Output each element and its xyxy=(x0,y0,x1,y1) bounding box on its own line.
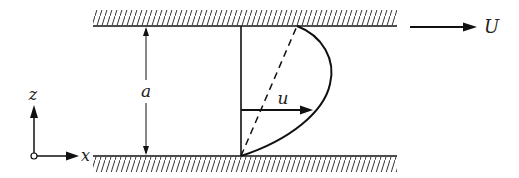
plate-velocity: U xyxy=(410,16,500,37)
velocity-arrow: u xyxy=(241,88,313,115)
bottom-plate xyxy=(93,156,397,172)
velocity-arrowhead-icon xyxy=(300,106,313,115)
gap-arrow-up-icon xyxy=(143,27,149,36)
top-plate-hatching xyxy=(93,10,397,25)
plate-velocity-label: U xyxy=(484,16,500,37)
coordinate-axes: z x xyxy=(28,85,90,165)
top-plate xyxy=(93,10,397,26)
linear-profile-dashed xyxy=(241,26,297,156)
flow-diagram: a u U z x xyxy=(0,0,519,178)
gap-label: a xyxy=(141,81,151,101)
gap-arrow-down-icon xyxy=(143,146,149,155)
gap-dimension: a xyxy=(141,27,151,155)
z-axis-arrowhead-icon xyxy=(30,105,38,118)
origin-icon xyxy=(31,153,37,159)
x-axis-arrowhead-icon xyxy=(66,152,79,161)
velocity-label: u xyxy=(278,88,289,108)
z-axis-label: z xyxy=(28,85,38,104)
plate-velocity-arrowhead-icon xyxy=(463,23,477,32)
bottom-plate-hatching xyxy=(93,157,397,172)
x-axis-label: x xyxy=(81,146,90,165)
